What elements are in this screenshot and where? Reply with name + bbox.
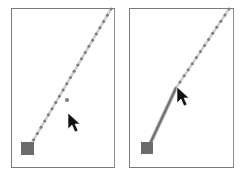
cursor-arrow-icon <box>177 87 189 106</box>
stray-point-icon <box>65 98 69 102</box>
guide-dot <box>215 26 218 29</box>
guide-dot <box>179 80 182 83</box>
guide-dot <box>219 20 222 23</box>
panel-before-content <box>21 8 113 156</box>
guide-dot <box>36 132 39 135</box>
guide-dot <box>58 95 61 98</box>
anchor-square-icon[interactable] <box>21 142 34 155</box>
panel-after-content <box>141 8 231 155</box>
guide-dot <box>110 8 113 11</box>
guide-dot <box>211 32 214 35</box>
guide-dot <box>98 26 101 29</box>
guide-dot <box>203 44 206 47</box>
guide-dot <box>51 107 54 110</box>
guide-dot <box>43 120 46 123</box>
guide-dot <box>199 50 202 53</box>
guide-dot <box>32 138 35 141</box>
drawing-canvas <box>0 0 241 178</box>
guide-dot <box>80 57 83 60</box>
guide-dot <box>187 68 190 71</box>
drawn-line-core <box>149 88 176 146</box>
guide-dot <box>102 20 105 23</box>
guide-dot <box>91 39 94 42</box>
guide-dot <box>65 82 68 85</box>
guide-dot <box>191 62 194 65</box>
guide-dot <box>95 32 98 35</box>
guide-dot <box>84 51 87 54</box>
guide-dot <box>73 70 76 73</box>
guide-dot <box>207 38 210 41</box>
guide-dot <box>106 14 109 17</box>
guide-dot <box>87 45 90 48</box>
guide-dot <box>223 14 226 17</box>
guide-dot <box>54 101 57 104</box>
guide-dot <box>69 76 72 79</box>
guide-dot <box>76 64 79 67</box>
guide-dot <box>40 126 43 129</box>
anchor-square-icon[interactable] <box>141 142 153 154</box>
guide-dot <box>47 113 50 116</box>
guide-dot <box>195 56 198 59</box>
guide-dot <box>228 8 231 11</box>
cursor-arrow-icon <box>68 113 80 132</box>
guide-dot <box>183 74 186 77</box>
guide-dot <box>62 88 65 91</box>
